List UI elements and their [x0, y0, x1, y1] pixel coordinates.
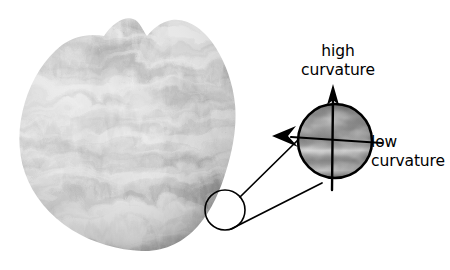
low-curvature-label-line1: low — [371, 133, 447, 152]
high-curvature-label-line1: high — [296, 42, 380, 61]
low-curvature-label: low curvature — [371, 133, 447, 171]
low-curvature-label-line2: curvature — [371, 152, 447, 171]
high-curvature-label-line2: curvature — [296, 61, 380, 80]
high-curvature-label: high curvature — [296, 42, 380, 80]
sample-region-circle — [205, 190, 245, 230]
textured-blob — [10, 8, 250, 260]
curvature-figure: high curvature low curvature — [0, 0, 450, 270]
